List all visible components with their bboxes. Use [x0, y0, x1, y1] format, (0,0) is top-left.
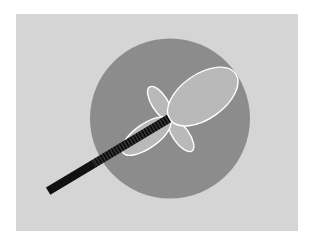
- antenna-pattern-diagram: [0, 0, 313, 245]
